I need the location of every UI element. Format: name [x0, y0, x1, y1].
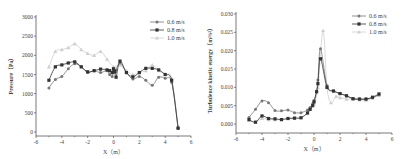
x-tick-label: 2 [339, 136, 342, 142]
y-tick-label: 0.020 [221, 48, 234, 54]
legend-label: 0.8 m/s [167, 27, 185, 33]
legend: 0.6 m/s0.8 m/s1.0 m/s [352, 13, 387, 35]
y-tick-label: 2500 [22, 33, 33, 39]
legend: 0.6 m/s0.8 m/s1.0 m/s [150, 19, 185, 41]
y-tick-label: 0.025 [221, 29, 234, 35]
x-tick-label: 0 [313, 136, 316, 142]
y-tick-label: 0.010 [221, 84, 234, 90]
series-0-6-m-s [248, 47, 381, 119]
x-tick-label: -4 [260, 136, 265, 142]
x-tick-label: -2 [286, 136, 291, 142]
x-axis-label: X（m） [103, 149, 124, 155]
x-tick-label: 0 [112, 139, 115, 145]
turbulence-plot: 0.0000.0050.0100.0150.0200.0250.030-6-4-… [204, 0, 407, 159]
x-tick-label: 6 [190, 139, 193, 145]
y-tick-label: 0.030 [221, 11, 234, 17]
series-1-0-m-s [247, 29, 381, 124]
y-axis-label: Pressure（Pa） [7, 55, 14, 95]
x-axis-label: X（m） [304, 146, 325, 152]
legend-label: 0.6 m/s [369, 13, 387, 19]
y-tick-label: 2000 [22, 52, 33, 58]
series-1-0-m-s [47, 42, 180, 128]
y-tick-label: 500 [25, 110, 34, 116]
series-0-8-m-s [247, 57, 380, 124]
x-tick-label: -4 [60, 139, 65, 145]
legend-label: 1.0 m/s [167, 35, 185, 41]
x-tick-label: -6 [234, 136, 239, 142]
y-tick-label: 1500 [22, 72, 33, 78]
x-tick-label: -2 [85, 139, 90, 145]
pressure-chart: 050010001500200025003000-6-4-20246X（m）Pr… [0, 0, 204, 159]
y-tick-label: 0.000 [221, 121, 234, 127]
y-tick-label: 0.015 [221, 66, 234, 72]
legend-label: 0.8 m/s [369, 21, 387, 27]
turbulence-chart: 0.0000.0050.0100.0150.0200.0250.030-6-4-… [204, 0, 407, 159]
legend-label: 1.0 m/s [369, 29, 387, 35]
legend-label: 0.6 m/s [167, 19, 185, 25]
pressure-plot: 050010001500200025003000-6-4-20246X（m）Pr… [0, 0, 204, 159]
y-axis-label: Turbulence kinetic energy（m²/s²） [206, 25, 213, 114]
y-tick-label: 3000 [22, 14, 33, 20]
x-tick-label: -6 [34, 139, 39, 145]
y-tick-label: 0 [30, 129, 33, 135]
x-tick-label: 4 [164, 139, 167, 145]
y-tick-label: 0.005 [221, 103, 234, 109]
x-tick-label: 4 [365, 136, 368, 142]
x-tick-label: 6 [391, 136, 394, 142]
y-tick-label: 1000 [22, 91, 33, 97]
x-tick-label: 2 [138, 139, 141, 145]
axes: 050010001500200025003000-6-4-20246X（m）Pr… [7, 14, 193, 155]
